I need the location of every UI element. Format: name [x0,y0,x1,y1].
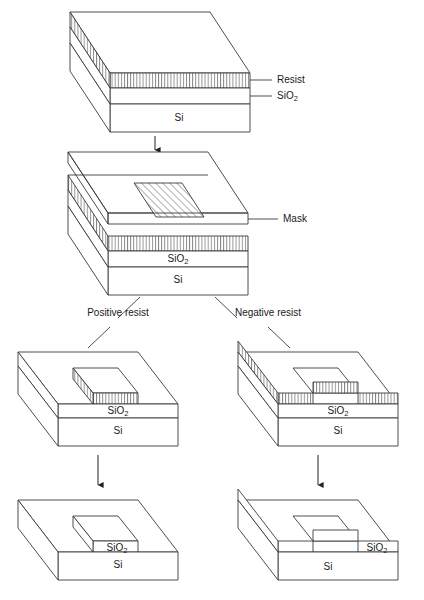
label-sio2-stage2: SiO2 [168,254,189,265]
stage4-resist-front-right [358,393,398,404]
stage1-resist-front-face [110,73,250,88]
stage4-resist-front-left [278,393,313,404]
label-sio2-subscript: 2 [124,409,128,418]
label-si-stage4: Si [334,426,343,436]
stage6-si-front-face [278,552,398,580]
label-si-stage6: Si [324,562,333,572]
stage-4-negative-developed [238,341,398,446]
stage-6-negative-etched [238,489,398,580]
label-si-stage1: Si [175,113,184,123]
label-sio2-subscript: 2 [294,94,298,103]
branch-line-right [215,297,237,318]
stage2-resist-front-face [108,236,248,251]
label-sio2-stage1: SiO2 [277,91,298,102]
label-si-stage5: Si [114,560,123,570]
label-si-stage2: Si [174,275,183,285]
label-sio2-subscript: 2 [344,409,348,418]
mask-plate-front-face [108,213,248,224]
label-si-stage3: Si [114,426,123,436]
stage-5-positive-etched [18,500,178,580]
photolithography-process-figure [0,0,424,600]
stage6-sio2-front-left [278,541,313,552]
label-sio2-text: SiO [328,405,345,416]
stage1-leader-lines [250,80,272,96]
label-negative-resist: Negative resist [235,308,301,318]
label-mask: Mask [283,214,307,224]
label-sio2-stage6: SiO2 [367,543,388,554]
label-sio2-text: SiO [367,542,384,553]
label-sio2-text: SiO [108,405,125,416]
label-sio2-subscript: 2 [184,257,188,266]
stage3-resist-island-front [93,393,138,404]
label-positive-resist: Positive resist [87,308,149,318]
label-sio2-subscript: 2 [383,546,387,555]
stage-2-mask-exposure [68,152,248,295]
label-sio2-text: SiO [168,253,185,264]
stage4-window-inner-wall [313,382,358,393]
label-sio2-stage5: SiO2 [107,543,128,554]
branch-line-right-2 [268,327,290,348]
stage6-window-inner-wall [313,530,358,541]
label-sio2-stage4: SiO2 [328,406,349,417]
label-resist: Resist [277,75,305,85]
stage-1-coated-wafer [70,12,250,132]
branch-line-left-2 [88,327,110,348]
stage-3-positive-developed [18,352,178,446]
stage1-sio2-front-face [110,88,250,104]
label-sio2-subscript: 2 [123,546,127,555]
label-sio2-stage3: SiO2 [108,406,129,417]
branch-split-lines [88,297,290,348]
label-sio2-text: SiO [107,542,124,553]
label-sio2-text: SiO [277,90,294,101]
